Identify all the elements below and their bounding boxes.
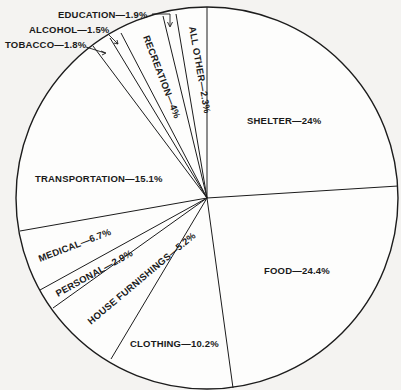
label-transportation: TRANSPORTATION—15.1% (35, 173, 163, 184)
label-tobacco: TOBACCO—1.8% (5, 39, 87, 50)
label-clothing: CLOTHING—10.2% (130, 338, 219, 349)
label-shelter: SHELTER—24% (247, 115, 322, 126)
label-education: EDUCATION—1.9% (58, 9, 148, 20)
expenditure-pie-chart: SHELTER—24% FOOD—24.4% CLOTHING—10.2% HO… (0, 0, 401, 390)
label-alcohol: ALCOHOL—1.5% (29, 24, 110, 35)
label-food: FOOD—24.4% (264, 265, 330, 276)
